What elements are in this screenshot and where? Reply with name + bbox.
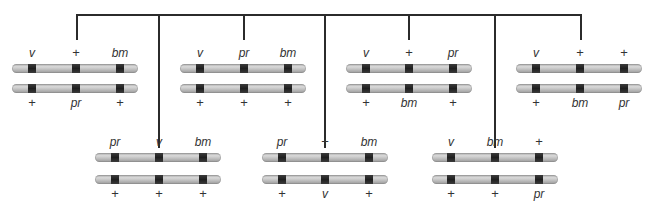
- connector-drop-g5: [158, 14, 160, 148]
- allele-label: +: [321, 135, 329, 149]
- allele-label: bm: [487, 135, 504, 149]
- chromosome-bottom: [516, 84, 642, 93]
- chromosome-top: [346, 64, 472, 73]
- allele-label: v: [29, 46, 35, 60]
- locus-band: [491, 153, 499, 162]
- connector-drop-g2: [243, 14, 245, 40]
- locus-band: [196, 64, 204, 73]
- locus-band: [365, 175, 373, 184]
- allele-label: pr: [534, 187, 545, 201]
- chromosome-bottom: [12, 84, 138, 93]
- allele-label: +: [491, 187, 499, 201]
- allele-label: +: [365, 187, 373, 201]
- locus-band: [28, 84, 36, 93]
- allele-label: pr: [110, 135, 121, 149]
- allele-label: pr: [619, 96, 630, 110]
- locus-band: [405, 84, 413, 93]
- chromosome-top: [180, 64, 306, 73]
- allele-label: +: [447, 187, 455, 201]
- allele-label: pr: [71, 96, 82, 110]
- locus-band: [620, 64, 628, 73]
- allele-label: bm: [361, 135, 378, 149]
- allele-label: +: [196, 96, 204, 110]
- chromosome-bottom: [180, 84, 306, 93]
- allele-label: +: [362, 96, 370, 110]
- allele-label: v: [197, 46, 203, 60]
- allele-label: +: [111, 187, 119, 201]
- allele-label: v: [322, 187, 328, 201]
- allele-label: v: [363, 46, 369, 60]
- allele-label: bm: [572, 96, 589, 110]
- chromosome-pair-g1: v + bm + pr +: [12, 46, 138, 116]
- locus-band: [155, 175, 163, 184]
- connector-drop-g3: [408, 14, 410, 40]
- locus-band: [535, 175, 543, 184]
- locus-band: [28, 64, 36, 73]
- connector-drop-g7: [494, 14, 496, 148]
- locus-band: [532, 84, 540, 93]
- locus-band: [321, 175, 329, 184]
- locus-band: [405, 64, 413, 73]
- locus-band: [111, 153, 119, 162]
- locus-band: [449, 64, 457, 73]
- locus-band: [199, 175, 207, 184]
- locus-band: [321, 153, 329, 162]
- allele-label: +: [240, 96, 248, 110]
- allele-label: pr: [239, 46, 250, 60]
- allele-label: pr: [277, 135, 288, 149]
- connector-horizontal: [76, 14, 582, 16]
- allele-label: +: [199, 187, 207, 201]
- allele-label: bm: [195, 135, 212, 149]
- locus-band: [278, 175, 286, 184]
- locus-band: [576, 84, 584, 93]
- allele-label: +: [284, 96, 292, 110]
- allele-label: bm: [280, 46, 297, 60]
- chromosome-pair-g7: v bm + + + pr: [432, 135, 558, 205]
- locus-band: [199, 153, 207, 162]
- allele-label: +: [576, 46, 584, 60]
- chromosome-pair-g4: v + + + bm pr: [516, 46, 642, 116]
- locus-band: [365, 153, 373, 162]
- allele-label: pr: [448, 46, 459, 60]
- locus-band: [620, 84, 628, 93]
- connector-drop-g1: [76, 14, 78, 40]
- allele-label: +: [449, 96, 457, 110]
- chromosome-top: [262, 153, 388, 162]
- chromosome-bottom: [432, 175, 558, 184]
- locus-band: [447, 175, 455, 184]
- locus-band: [535, 153, 543, 162]
- locus-band: [576, 64, 584, 73]
- allele-label: +: [620, 46, 628, 60]
- locus-band: [111, 175, 119, 184]
- chromosome-pair-g5: pr v bm + + +: [95, 135, 221, 205]
- allele-label: +: [116, 96, 124, 110]
- connector-drop-g4: [580, 14, 582, 40]
- chromosome-bottom: [346, 84, 472, 93]
- allele-label: +: [28, 96, 36, 110]
- allele-label: +: [72, 46, 80, 60]
- allele-label: bm: [112, 46, 129, 60]
- chromosome-bottom: [262, 175, 388, 184]
- locus-band: [362, 64, 370, 73]
- allele-label: v: [448, 135, 454, 149]
- chromosome-top: [432, 153, 558, 162]
- locus-band: [116, 64, 124, 73]
- chromosome-pair-g3: v + pr + bm +: [346, 46, 472, 116]
- connector-drop-g6: [324, 14, 326, 148]
- chromosome-top: [12, 64, 138, 73]
- allele-label: v: [533, 46, 539, 60]
- locus-band: [155, 153, 163, 162]
- chromosome-pair-g2: v pr bm + + +: [180, 46, 306, 116]
- locus-band: [284, 64, 292, 73]
- locus-band: [278, 153, 286, 162]
- chromosome-top: [95, 153, 221, 162]
- locus-band: [196, 84, 204, 93]
- locus-band: [532, 64, 540, 73]
- locus-band: [447, 153, 455, 162]
- allele-label: +: [155, 187, 163, 201]
- allele-label: +: [405, 46, 413, 60]
- locus-band: [491, 175, 499, 184]
- allele-label: +: [535, 135, 543, 149]
- locus-band: [72, 84, 80, 93]
- chromosome-bottom: [95, 175, 221, 184]
